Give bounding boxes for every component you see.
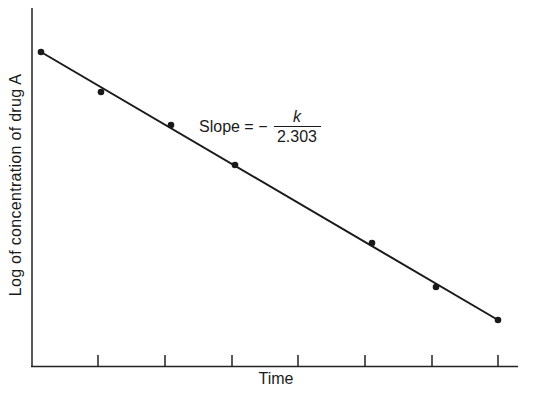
data-point	[168, 122, 175, 129]
slope-denominator: 2.303	[277, 127, 317, 147]
data-point	[495, 317, 502, 324]
slope-annotation: Slope = − k 2.303	[199, 104, 321, 150]
chart-canvas	[0, 0, 539, 400]
slope-text: Slope = −	[199, 118, 268, 136]
y-axis-label: Log of concentration of drug A	[7, 60, 27, 310]
data-point	[38, 49, 45, 56]
x-axis-ticks	[98, 355, 498, 366]
data-point	[369, 240, 376, 247]
fit-line	[41, 52, 498, 320]
data-point	[232, 162, 239, 169]
data-point	[433, 284, 440, 291]
slope-numerator: k	[293, 108, 301, 126]
slope-fraction: k 2.303	[274, 108, 321, 147]
x-axis-label: Time	[236, 370, 316, 388]
data-point	[98, 89, 105, 96]
